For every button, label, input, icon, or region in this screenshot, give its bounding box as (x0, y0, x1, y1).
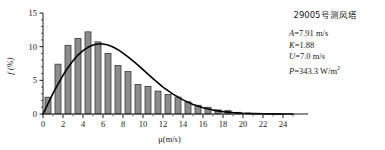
histogram-bar (115, 66, 121, 114)
parameter-value: =7.91 m/s (294, 28, 328, 38)
x-tick-label: 2 (61, 119, 65, 129)
histogram-bar (95, 42, 101, 114)
histogram-bar (155, 91, 161, 114)
x-tick-label: 10 (139, 119, 148, 129)
parameter-line: P=343.3 W/m2 (289, 63, 379, 77)
bar-series (45, 32, 281, 115)
parameter-list: A=7.91 m/sK=1.88U=7.0 m/sP=343.3 W/m2 (271, 28, 379, 77)
parameter-line: K=1.88 (289, 40, 379, 52)
y-axis-tick-labels: 051015 (29, 8, 38, 119)
histogram-bar (85, 32, 91, 114)
y-tick-label: 15 (29, 8, 38, 18)
y-axis-title: f (%) (5, 57, 15, 74)
parameter-line: A=7.91 m/s (289, 28, 379, 40)
histogram-bar (125, 72, 131, 114)
x-axis-title: μ(m/s) (158, 134, 181, 144)
svg-text:f (%): f (%) (5, 57, 15, 74)
annotation-block: 29005号测风塔 A=7.91 m/sK=1.88U=7.0 m/sP=343… (271, 8, 379, 77)
y-tick-label: 10 (29, 42, 38, 52)
parameter-value: =7.0 m/s (295, 51, 325, 61)
x-tick-label: 16 (199, 119, 208, 129)
x-tick-label: 22 (259, 119, 268, 129)
wind-speed-distribution-chart: 024681012141618202224 051015 μ(m/s) f (%… (0, 0, 385, 150)
x-tick-label: 4 (81, 119, 86, 129)
x-tick-label: 18 (219, 119, 228, 129)
histogram-bar (105, 53, 111, 114)
parameter-exponent: 2 (337, 65, 340, 71)
parameter-value: =343.3 W/m (294, 65, 337, 75)
x-axis-tick-labels: 024681012141618202224 (41, 119, 288, 129)
svg-text:μ(m/s): μ(m/s) (158, 134, 181, 144)
station-title: 29005号测风塔 (271, 8, 379, 20)
histogram-bar (65, 45, 71, 114)
x-tick-label: 8 (121, 119, 125, 129)
x-tick-label: 24 (279, 119, 288, 129)
x-tick-label: 14 (179, 119, 188, 129)
histogram-bar (175, 97, 181, 114)
y-tick-label: 0 (33, 109, 37, 119)
histogram-bar (165, 94, 171, 114)
x-tick-label: 6 (101, 119, 105, 129)
histogram-bar (135, 84, 141, 114)
y-tick-label: 5 (33, 75, 37, 85)
parameter-value: =1.88 (295, 40, 315, 50)
x-tick-label: 0 (41, 119, 45, 129)
x-tick-label: 12 (159, 119, 168, 129)
x-tick-label: 20 (239, 119, 248, 129)
histogram-bar (75, 39, 81, 114)
histogram-bar (145, 86, 151, 114)
parameter-line: U=7.0 m/s (289, 51, 379, 63)
